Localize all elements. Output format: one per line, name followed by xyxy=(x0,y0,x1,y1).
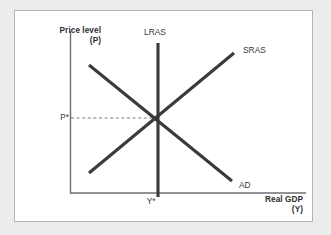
x-axis-title: Real GDP(Y) xyxy=(211,195,303,214)
ad-label: AD xyxy=(239,181,251,191)
sras-curve xyxy=(89,53,234,173)
x-axis-title-line1: Real GDP xyxy=(265,195,303,204)
lras-label: LRAS xyxy=(144,28,166,38)
figure-frame: Price level(P) Real GDP(Y) LRAS SRAS AD … xyxy=(14,10,313,222)
x-axis-title-line2: (Y) xyxy=(292,205,303,214)
sras-label: SRAS xyxy=(243,46,266,56)
equilibrium-output-label: Y* xyxy=(141,197,161,207)
y-axis-title: Price level(P) xyxy=(25,26,101,45)
y-axis-title-line2: (P) xyxy=(90,36,101,45)
equilibrium-price-label: P* xyxy=(53,113,69,123)
ad-curve xyxy=(89,65,232,181)
y-axis-title-line1: Price level xyxy=(60,26,101,35)
